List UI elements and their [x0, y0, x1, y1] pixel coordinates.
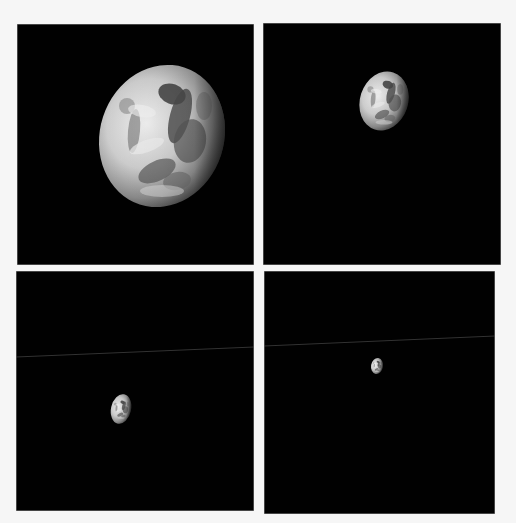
photo-panel-3	[16, 271, 254, 511]
space-background	[264, 271, 495, 514]
space-background	[263, 23, 501, 265]
photo-panel-4	[264, 271, 495, 514]
space-background	[16, 271, 254, 511]
space-background	[17, 24, 254, 265]
photo-panel-1	[17, 24, 254, 265]
photo-panel-2	[263, 23, 501, 265]
